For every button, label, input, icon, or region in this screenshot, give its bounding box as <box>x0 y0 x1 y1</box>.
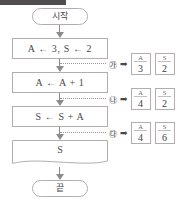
flow-step-accumulate: S ← S + A <box>12 106 108 127</box>
state-cell-value: 4 <box>138 131 143 143</box>
arrow-head-icon <box>56 174 64 180</box>
page-top-band <box>0 0 66 5</box>
state-cell-header: S <box>158 54 171 62</box>
annotation-marker-ga: ㉮ <box>106 59 119 70</box>
state-table-ga: A 3 S 2 <box>131 53 175 75</box>
flow-output-document: S <box>12 140 108 167</box>
arrow-start-to-init <box>12 25 108 38</box>
leader-line-na <box>60 98 106 100</box>
flow-step-increment: A ← A + 1 <box>12 72 108 93</box>
state-cell-header: A <box>134 89 147 97</box>
annotation-row-ga: ㉮ ➡ A 3 S 2 <box>106 53 175 75</box>
state-cell-header: S <box>158 123 171 131</box>
state-cell-value: 3 <box>138 62 143 74</box>
flow-start-label: 시작 <box>52 12 69 21</box>
state-table-na: A 4 S 2 <box>131 88 175 110</box>
leader-line-da <box>60 132 106 134</box>
annotation-marker-da: ㉰ <box>106 128 119 139</box>
state-cell-header: A <box>134 123 147 131</box>
flow-output-label: S <box>12 144 108 155</box>
state-cell-header: A <box>134 54 147 62</box>
annotation-row-da: ㉰ ➡ A 4 S 6 <box>106 122 175 144</box>
state-cell-value: 4 <box>138 97 143 109</box>
flowchart-column: 시작 A ← 3, S ← 2 A ← A + 1 S ← S + A <box>12 8 108 197</box>
flowchart-page: 시작 A ← 3, S ← 2 A ← A + 1 S ← S + A <box>0 0 188 207</box>
annotation-marker-na: ㉯ <box>106 94 119 105</box>
state-cell-a: A 4 <box>131 122 151 144</box>
flow-step-accumulate-label: S ← S + A <box>36 112 85 122</box>
annotation-row-na: ㉯ ➡ A 4 S 2 <box>106 88 175 110</box>
flow-step-init: A ← 3, S ← 2 <box>12 38 108 59</box>
flow-step-increment-label: A ← A + 1 <box>36 78 85 88</box>
flow-start-terminal: 시작 <box>32 8 88 25</box>
arrow-head-icon <box>56 100 64 106</box>
state-cell-value: 2 <box>162 97 167 109</box>
right-arrow-icon: ➡ <box>120 129 128 138</box>
state-cell-a: A 3 <box>131 53 151 75</box>
arrow-init-to-increment <box>12 59 108 72</box>
leader-line-ga <box>60 63 106 65</box>
state-cell-value: 6 <box>162 131 167 143</box>
arrow-output-to-end <box>12 167 108 180</box>
state-table-da: A 4 S 6 <box>131 122 175 144</box>
state-cell-s: S 6 <box>155 122 175 144</box>
state-cell-s: S 2 <box>155 88 175 110</box>
flow-end-label: 끝 <box>56 184 64 193</box>
state-cell-s: S 2 <box>155 53 175 75</box>
right-arrow-icon: ➡ <box>120 60 128 69</box>
right-arrow-icon: ➡ <box>120 95 128 104</box>
flow-end-terminal: 끝 <box>32 180 88 197</box>
flow-step-init-label: A ← 3, S ← 2 <box>28 44 92 54</box>
arrow-head-icon <box>56 66 64 72</box>
state-cell-value: 2 <box>162 62 167 74</box>
arrow-head-icon <box>56 32 64 38</box>
state-cell-header: S <box>158 89 171 97</box>
state-cell-a: A 4 <box>131 88 151 110</box>
